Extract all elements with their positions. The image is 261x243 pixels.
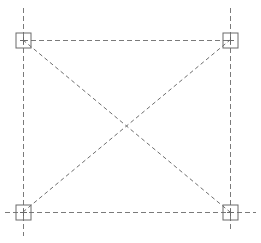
grid-plan-diagram — [0, 0, 261, 243]
diagonal-lines — [23, 40, 230, 212]
diagram-canvas — [0, 0, 261, 243]
